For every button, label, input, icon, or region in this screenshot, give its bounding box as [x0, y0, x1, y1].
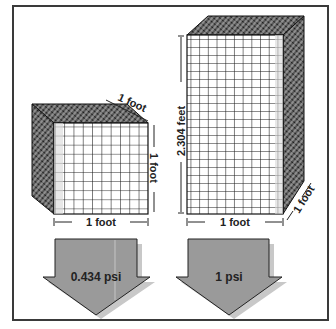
small-cube-width-label: 1 foot: [86, 216, 116, 228]
small-cube-height-dimension: 1 foot: [148, 125, 160, 212]
pressure-arrow-large: 1 psi: [176, 239, 287, 319]
large-cube-right-face: [283, 16, 304, 214]
small-cube-front-face: [54, 123, 148, 214]
large-cube-height-label: 2.304 feet: [175, 106, 187, 156]
large-cube-width-label: 1 foot: [220, 216, 250, 228]
pressure-diagram: 1 foot 1 foot 1 foot 2.304 feet 1 foot: [0, 0, 336, 329]
small-cube-height-label: 1 foot: [148, 153, 160, 183]
large-cube-height-dimension: 2.304 feet: [175, 36, 187, 213]
arrow-large-label: 1 psi: [215, 270, 242, 284]
small-cube-left-face: [32, 104, 54, 214]
large-cube-width-dimension: 1 foot: [187, 216, 283, 228]
arrow-small-label: 0.434 psi: [71, 270, 122, 284]
pressure-arrow-small: 0.434 psi: [43, 239, 155, 319]
large-cube-front-face: [187, 35, 283, 214]
small-cube: [32, 104, 148, 214]
large-cube: [187, 16, 304, 214]
small-cube-width-dimension: 1 foot: [54, 216, 148, 228]
